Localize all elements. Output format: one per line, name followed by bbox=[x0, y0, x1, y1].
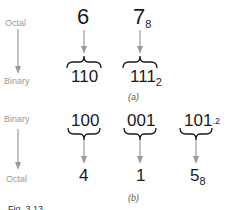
octal-digit-7: 78 bbox=[133, 6, 151, 30]
octal-digit-5: 58 bbox=[190, 167, 206, 187]
side-arrow-b bbox=[15, 129, 21, 170]
octal-digit-6: 6 bbox=[77, 6, 89, 30]
arrow-7 bbox=[137, 30, 143, 54]
binary-group-111: 1112 bbox=[130, 68, 162, 88]
label-binary-a: Binary bbox=[4, 76, 30, 86]
octal-digit-4: 4 bbox=[79, 167, 88, 187]
label-octal-b: Octal bbox=[6, 174, 27, 184]
label-binary-b: Binary bbox=[4, 114, 30, 124]
arrow-001 bbox=[137, 140, 143, 164]
label-octal-a: Octal bbox=[5, 18, 26, 28]
binary-group-101: 101.2 bbox=[184, 112, 220, 129]
arrow-101 bbox=[193, 140, 199, 164]
arrow-6 bbox=[81, 30, 87, 54]
binary-group-100: 100 bbox=[71, 112, 99, 132]
figure-caption: Fig. 3.13 bbox=[8, 204, 43, 210]
panel-b-tag: (b) bbox=[128, 193, 139, 203]
binary-group-110: 110 bbox=[71, 68, 98, 88]
panel-a-tag: (a) bbox=[128, 92, 139, 102]
binary-group-001: 001 bbox=[127, 112, 155, 132]
side-arrow-a bbox=[15, 29, 21, 74]
arrow-100 bbox=[81, 140, 87, 164]
octal-digit-1: 1 bbox=[136, 167, 145, 187]
